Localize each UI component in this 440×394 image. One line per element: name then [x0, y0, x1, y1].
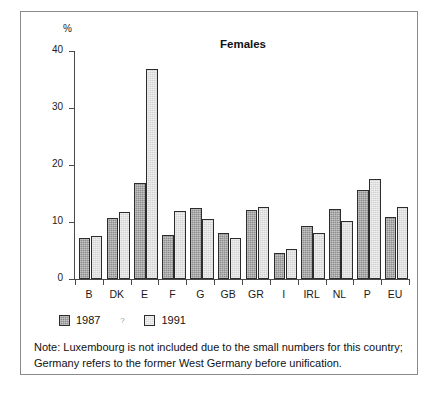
y-axis-unit-label: % — [63, 23, 72, 34]
bar-GB-1991 — [230, 238, 242, 279]
legend-label-1987: 1987 — [76, 314, 100, 326]
bar-E-1991 — [146, 69, 158, 279]
figure-page: % Females 010203040 BDKEFGGBGRIIRLNLPEU … — [0, 0, 440, 394]
bar-F-1991 — [174, 211, 186, 279]
x-label-EU: EU — [388, 288, 403, 300]
bar-I-1987 — [274, 253, 286, 279]
x-tick — [298, 279, 299, 285]
bar-EU-1987 — [385, 217, 397, 279]
x-tick — [131, 279, 132, 285]
bar-G-1991 — [202, 219, 214, 279]
chart-legend: 1987 ? 1991 — [59, 314, 186, 326]
x-label-NL: NL — [333, 288, 346, 300]
legend-swatch-1991 — [144, 315, 155, 326]
bar-IRL-1987 — [301, 226, 313, 279]
bar-B-1991 — [91, 236, 103, 279]
bar-GR-1987 — [246, 210, 258, 279]
legend-item-1987: 1987 — [59, 314, 100, 326]
y-tick-label: 10 — [37, 215, 63, 226]
y-tick-label: 40 — [37, 44, 63, 55]
y-tick-label: 20 — [37, 158, 63, 169]
x-label-E: E — [141, 288, 148, 300]
x-tick — [158, 279, 159, 285]
bar-I-1991 — [286, 249, 298, 279]
bar-DK-1987 — [107, 218, 119, 279]
x-tick — [242, 279, 243, 285]
x-label-B: B — [85, 288, 92, 300]
x-tick — [75, 279, 76, 285]
x-tick — [326, 279, 327, 285]
x-label-DK: DK — [109, 288, 124, 300]
x-label-F: F — [169, 288, 175, 300]
legend-label-1991: 1991 — [161, 314, 185, 326]
figure-note-line-1: Note: Luxembourg is not included due to … — [34, 340, 406, 356]
bar-P-1991 — [369, 179, 381, 279]
x-tick — [270, 279, 271, 285]
legend-item-1991: 1991 — [144, 314, 185, 326]
bar-GR-1991 — [258, 207, 270, 279]
legend-separator: ? — [100, 316, 144, 325]
x-label-I: I — [282, 288, 285, 300]
figure-note-line-2: Germany refers to the former West German… — [34, 356, 406, 372]
chart-area: % Females 010203040 BDKEFGGBGRIIRLNLPEU — [21, 12, 419, 302]
x-label-GR: GR — [248, 288, 264, 300]
x-tick — [409, 279, 410, 285]
x-label-IRL: IRL — [303, 288, 319, 300]
x-label-G: G — [196, 288, 204, 300]
x-tick — [103, 279, 104, 285]
figure-note: Note: Luxembourg is not included due to … — [34, 340, 406, 371]
x-label-P: P — [364, 288, 371, 300]
bar-GB-1987 — [218, 233, 230, 279]
chart-title: Females — [21, 38, 419, 50]
bar-NL-1987 — [329, 209, 341, 279]
bar-IRL-1991 — [313, 233, 325, 279]
bar-P-1987 — [357, 190, 369, 279]
plot-bars — [75, 51, 409, 279]
x-label-GB: GB — [220, 288, 235, 300]
bar-G-1987 — [190, 208, 202, 279]
bar-DK-1991 — [119, 212, 131, 279]
figure-frame: % Females 010203040 BDKEFGGBGRIIRLNLPEU … — [20, 11, 418, 375]
y-tick-label: 30 — [37, 101, 63, 112]
x-tick — [381, 279, 382, 285]
bar-EU-1991 — [397, 207, 409, 279]
x-tick — [186, 279, 187, 285]
y-tick-label: 0 — [37, 272, 63, 283]
legend-swatch-1987 — [59, 315, 70, 326]
x-tick — [214, 279, 215, 285]
bar-E-1987 — [134, 183, 146, 279]
bar-F-1987 — [162, 235, 174, 279]
bar-NL-1991 — [341, 221, 353, 279]
bar-B-1987 — [79, 238, 91, 279]
x-tick — [353, 279, 354, 285]
